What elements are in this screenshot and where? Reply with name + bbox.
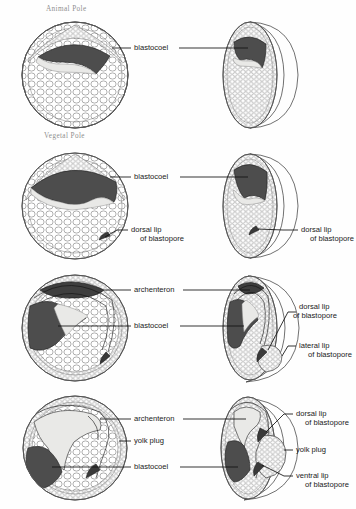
stage-3-mid-gastrula: archenteron blastocoel dorsal lip of bla… bbox=[0, 268, 356, 392]
embryo-3d-3 bbox=[223, 276, 299, 382]
stage-1-illustration bbox=[0, 0, 356, 130]
embryo-section-2 bbox=[22, 153, 128, 259]
embryo-section-1 bbox=[22, 22, 128, 128]
stage-3-illustration bbox=[0, 268, 356, 392]
label-yolk-plug-left-4: yolk plug bbox=[134, 436, 164, 445]
label-text: yolk plug bbox=[296, 445, 326, 454]
label-text: blastocoel bbox=[134, 172, 168, 181]
label-blastocoel-4: blastocoel bbox=[134, 462, 168, 471]
yolk-plug-4-3d bbox=[256, 435, 286, 478]
label-text-line1: dorsal lip bbox=[301, 225, 354, 234]
label-text-line2: of blastopore bbox=[296, 480, 349, 489]
label-blastocoel-3: blastocoel bbox=[134, 321, 168, 330]
label-text-line1: dorsal lip bbox=[131, 225, 184, 234]
embryo-3d-1 bbox=[223, 22, 298, 128]
label-text-line1: dorsal lip bbox=[296, 409, 349, 418]
label-blastocoel-2: blastocoel bbox=[134, 172, 168, 181]
label-lateral-lip-right-3: lateral lip of blastopore bbox=[299, 341, 352, 359]
label-text: blastocoel bbox=[134, 321, 168, 330]
label-yolk-plug-right-4: yolk plug bbox=[296, 445, 326, 454]
label-ventral-lip-right-4: ventral lip of blastopore bbox=[296, 471, 349, 489]
label-text-line1: ventral lip bbox=[296, 471, 349, 480]
label-text: yolk plug bbox=[134, 436, 164, 445]
label-blastocoel-1: blastocoel bbox=[134, 43, 168, 52]
label-text-line1: dorsal lip bbox=[299, 302, 337, 311]
label-text-line2: of blastopore bbox=[301, 234, 354, 243]
label-dorsal-lip-left-2: dorsal lip of blastopore bbox=[131, 225, 184, 243]
stage-2-early-gastrula: Vegetal Pole bbox=[0, 130, 356, 268]
label-dorsal-lip-right-4: dorsal lip of blastopore bbox=[296, 409, 349, 427]
label-text: blastocoel bbox=[134, 43, 168, 52]
stage-1-blastula: Animal Pole bbox=[0, 0, 356, 130]
label-text-line2: of blastopore bbox=[296, 418, 349, 427]
label-dorsal-lip-right-3: dorsal lip of blastopore bbox=[299, 302, 337, 320]
stage-4-late-gastrula: archenteron yolk plug blastocoel dorsal … bbox=[0, 392, 356, 509]
leader-lateral-lip-right-3 bbox=[282, 346, 296, 356]
label-dorsal-lip-right-2: dorsal lip of blastopore bbox=[301, 225, 354, 243]
embryo-3d-4 bbox=[221, 397, 298, 500]
label-archenteron-4: archenteron bbox=[134, 414, 175, 423]
label-text: blastocoel bbox=[134, 462, 168, 471]
label-archenteron-3: archenteron bbox=[134, 285, 175, 294]
label-text-line2: of blastopore bbox=[293, 311, 337, 320]
embryo-section-3 bbox=[22, 275, 128, 381]
stage-2-illustration bbox=[0, 130, 356, 268]
embryo-3d-2 bbox=[223, 154, 298, 258]
label-text-line2: of blastopore bbox=[131, 234, 184, 243]
label-text-line1: lateral lip bbox=[299, 341, 352, 350]
label-text: archenteron bbox=[134, 414, 175, 423]
label-text: archenteron bbox=[134, 285, 175, 294]
label-text-line2: of blastopore bbox=[299, 350, 352, 359]
embryo-section-4 bbox=[23, 396, 127, 500]
